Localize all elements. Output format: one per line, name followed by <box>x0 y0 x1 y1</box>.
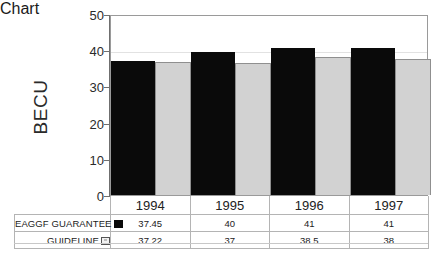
cell-eaggf-1995: 40 <box>190 215 270 232</box>
y-tick-label-40: 40 <box>74 45 104 58</box>
cell-eaggf-1996: 41 <box>270 215 350 232</box>
bar-guideline-1996 <box>315 57 351 195</box>
year-header-1997: 1997 <box>349 196 429 215</box>
bar-group-1997 <box>351 16 431 195</box>
table-row: GUIDELINE 37.22 37 38.5 38 <box>15 232 429 249</box>
y-tick-label-30: 30 <box>74 81 104 94</box>
bar-guideline-1995 <box>235 63 271 195</box>
y-axis-title: BECU <box>30 57 52 157</box>
y-tick-label-20: 20 <box>74 118 104 131</box>
cell-eaggf-1997: 41 <box>349 215 429 232</box>
legend-item-guideline: GUIDELINE <box>15 232 111 249</box>
y-tick-mark-40 <box>104 51 109 52</box>
y-tick-mark-50 <box>104 15 109 16</box>
bar-guideline-1997 <box>395 59 431 195</box>
table-row-years: 1994 1995 1996 1997 <box>15 196 429 215</box>
bar-eaggf-1995 <box>191 52 235 195</box>
y-tick-mark-30 <box>104 87 109 88</box>
year-header-1994: 1994 <box>111 196 191 215</box>
y-tick-mark-20 <box>104 124 109 125</box>
y-tick-label-50: 50 <box>74 9 104 22</box>
bar-eaggf-1996 <box>271 48 315 195</box>
plot-area <box>110 15 428 196</box>
legend-item-eaggf-guarantee: EAGGF GUARANTEE <box>15 215 111 232</box>
bar-chart: 50 40 30 20 10 0 BECU <box>0 0 443 253</box>
data-table: 1994 1995 1996 1997 EAGGF GUARANTEE 37.4… <box>14 196 429 249</box>
bar-eaggf-1994 <box>111 61 155 195</box>
bar-group-1995 <box>191 16 271 195</box>
bar-eaggf-1997 <box>351 48 395 195</box>
cell-guideline-1994: 37.22 <box>111 232 191 249</box>
bar-guideline-1994 <box>155 62 191 195</box>
legend-label-eaggf-guarantee: EAGGF GUARANTEE <box>15 218 112 229</box>
cell-guideline-1995: 37 <box>190 232 270 249</box>
bars-layer <box>111 16 427 195</box>
cell-guideline-1997: 38 <box>349 232 429 249</box>
bar-group-1994 <box>111 16 191 195</box>
bottom-rule <box>14 243 428 244</box>
bar-group-1996 <box>271 16 351 195</box>
year-header-1996: 1996 <box>270 196 350 215</box>
cell-guideline-1996: 38.5 <box>270 232 350 249</box>
legend-swatch-filled-square-icon <box>114 220 123 228</box>
y-tick-mark-10 <box>104 160 109 161</box>
table-row: EAGGF GUARANTEE 37.45 40 41 41 <box>15 215 429 232</box>
years-row-spacer <box>15 196 111 215</box>
year-header-1995: 1995 <box>190 196 270 215</box>
y-tick-label-10: 10 <box>74 154 104 167</box>
